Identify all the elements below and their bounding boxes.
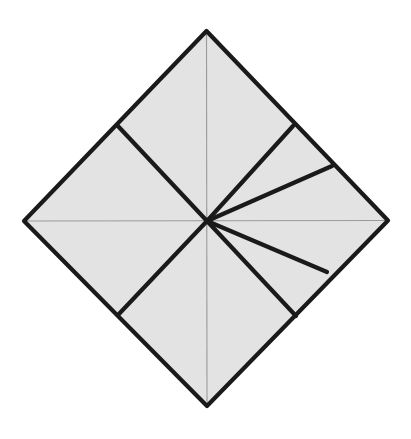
square-dissection-figure (0, 0, 411, 439)
diagram-canvas (0, 0, 411, 439)
